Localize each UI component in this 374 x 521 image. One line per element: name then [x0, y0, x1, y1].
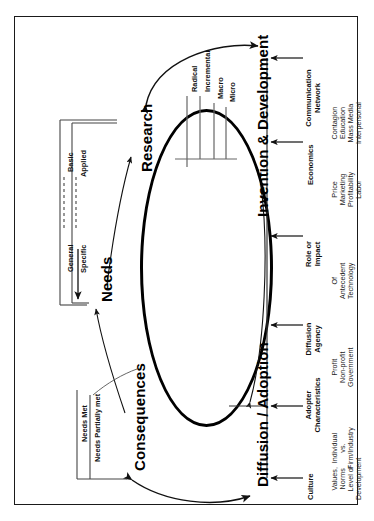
arrow-consequences-diffusion: [132, 480, 250, 502]
factor-heading-adopter-characteristics: Adopter Characteristics: [305, 368, 322, 442]
tick-label-radical: Radical: [191, 66, 199, 92]
factor-item: Labor: [355, 172, 363, 207]
diagram-canvas: Research Invention & Development Diffusi…: [0, 0, 374, 521]
label-applied: Applied: [80, 150, 88, 177]
arrow-research-invention: [146, 45, 258, 105]
factor-heading-culture: Culture: [307, 473, 316, 500]
factor-items-communication-network: Contagion Education Mass Media Interpers…: [331, 102, 363, 144]
factor-items-economics: Price Marketing Profitability Labor: [331, 172, 363, 207]
factor-heading-line: Communication Network: [305, 54, 322, 142]
label-basic: Basic: [67, 152, 75, 172]
tick-label-macro: Macro: [217, 77, 225, 99]
factor-heading-role-or-impact: Role or Impact: [305, 231, 322, 277]
stage-label-consequences: Consequences: [132, 363, 149, 471]
factor-item: Development: [355, 458, 363, 500]
factor-heading-communication-network: Communication Network: [305, 54, 322, 142]
label-specific: Specific: [80, 245, 88, 273]
factor-item: Interpersonal: [355, 102, 363, 144]
factor-heading-economics: Economics: [307, 144, 316, 185]
outcome-label-needs-met: Needs Met: [81, 405, 89, 442]
factor-heading-line: Role or Impact: [305, 231, 322, 277]
tick-label-incremental: Incremental: [204, 51, 212, 93]
outcome-label-needs-partially-met: Needs Partially met: [94, 394, 102, 462]
factor-item: Technology: [347, 263, 355, 299]
stage-label-research: Research: [139, 104, 156, 172]
factor-items-culture: Values, Norms Level of Development: [331, 458, 363, 500]
factor-item: Government: [347, 347, 355, 387]
factor-heading-line: Diffusion Agency: [305, 315, 322, 363]
stage-label-needs: Needs: [99, 256, 116, 302]
stage-label-invention: Invention & Development: [255, 35, 272, 217]
factor-items-role-or-impact: Of Antecedent Technology: [331, 263, 355, 299]
figure-border: Research Invention & Development Diffusi…: [14, 16, 358, 505]
tick-label-micro: Micro: [229, 82, 237, 102]
factor-heading-diffusion-agency: Diffusion Agency: [305, 315, 322, 363]
label-general: General: [67, 244, 75, 272]
factor-items-diffusion-agency: Profit Non-profit Government: [331, 347, 355, 387]
factor-heading-line: Adopter Characteristics: [305, 368, 322, 442]
stage-label-diffusion: Diffusion / Adoption: [255, 342, 272, 487]
